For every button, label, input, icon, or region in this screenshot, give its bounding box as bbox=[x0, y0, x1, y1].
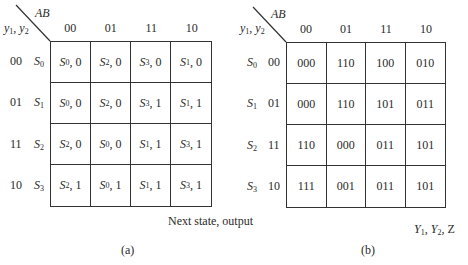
row-state-label: S0 bbox=[34, 54, 44, 69]
table-cell: 101 bbox=[406, 125, 446, 166]
table-cell: 011 bbox=[366, 125, 406, 166]
column-header: 11 bbox=[131, 21, 172, 36]
row-code-label: 10 bbox=[10, 178, 22, 193]
row-state-label: S1 bbox=[34, 95, 44, 110]
column-variable-label: AB bbox=[271, 7, 286, 22]
row-state-label: S2 bbox=[34, 137, 44, 152]
row-state-label: S0 bbox=[247, 55, 257, 70]
table-cell: 100 bbox=[366, 43, 406, 84]
table-cell: 110 bbox=[327, 84, 367, 125]
table-cell: S2, 0 bbox=[51, 124, 91, 165]
table-cell: 110 bbox=[287, 125, 327, 166]
table-footer-label: Next state, output bbox=[168, 214, 253, 229]
table-cell: 110 bbox=[327, 43, 367, 84]
table-cell: S3, 0 bbox=[131, 42, 171, 83]
column-header: 11 bbox=[366, 22, 406, 37]
row-code-label: 01 bbox=[268, 96, 280, 111]
row-state-label: S3 bbox=[247, 179, 257, 194]
column-header: 01 bbox=[326, 22, 366, 37]
table-cell: 001 bbox=[327, 166, 367, 207]
table-cell: S1, 0 bbox=[171, 42, 211, 83]
column-header: 01 bbox=[91, 21, 132, 36]
table-cell: 111 bbox=[287, 166, 327, 207]
row-code-label: 00 bbox=[10, 54, 22, 69]
table-cell: 010 bbox=[406, 43, 446, 84]
state-table-grid: 0001101000100001101010111100000111011110… bbox=[286, 42, 446, 208]
row-code-label: 10 bbox=[268, 179, 280, 194]
column-header: 10 bbox=[172, 21, 213, 36]
table-cell: 000 bbox=[287, 84, 327, 125]
table-cell: S0, 0 bbox=[51, 83, 91, 124]
table-cell: S2, 1 bbox=[51, 165, 91, 206]
column-variable-label: AB bbox=[35, 6, 50, 21]
table-cell: S3, 1 bbox=[171, 165, 211, 206]
column-header: 00 bbox=[286, 22, 326, 37]
column-header: 10 bbox=[406, 22, 446, 37]
row-state-label: S3 bbox=[34, 178, 44, 193]
table-cell: S2, 0 bbox=[91, 83, 131, 124]
table-footer-label: Y1, Y2, Z bbox=[414, 222, 455, 237]
table-cell: 011 bbox=[406, 84, 446, 125]
row-code-label: 11 bbox=[10, 137, 22, 152]
row-variable-label: y1, y2 bbox=[240, 21, 265, 36]
table-cell: 101 bbox=[406, 166, 446, 207]
table-cell: S3, 1 bbox=[171, 124, 211, 165]
table-cell: S1, 1 bbox=[131, 165, 171, 206]
figure-caption: (a) bbox=[121, 243, 134, 258]
row-variable-label: y1, y2 bbox=[4, 21, 29, 36]
row-code-label: 11 bbox=[268, 138, 280, 153]
table-cell: 101 bbox=[366, 84, 406, 125]
table-cell: 000 bbox=[287, 43, 327, 84]
table-cell: S0, 1 bbox=[91, 165, 131, 206]
state-table-grid: S0, 0S2, 0S3, 0S1, 0S0, 0S2, 0S3, 1S1, 1… bbox=[50, 41, 212, 207]
row-state-label: S2 bbox=[247, 138, 257, 153]
table-cell: S3, 1 bbox=[131, 83, 171, 124]
table-cell: S2, 0 bbox=[91, 42, 131, 83]
figure-caption: (b) bbox=[361, 243, 375, 258]
table-cell: 000 bbox=[327, 125, 367, 166]
table-cell: S1, 1 bbox=[131, 124, 171, 165]
row-code-label: 01 bbox=[10, 95, 22, 110]
table-cell: S0, 0 bbox=[91, 124, 131, 165]
table-cell: S1, 1 bbox=[171, 83, 211, 124]
table-cell: S0, 0 bbox=[51, 42, 91, 83]
table-cell: 011 bbox=[366, 166, 406, 207]
row-state-label: S1 bbox=[247, 96, 257, 111]
row-code-label: 00 bbox=[268, 55, 280, 70]
column-header: 00 bbox=[50, 21, 91, 36]
